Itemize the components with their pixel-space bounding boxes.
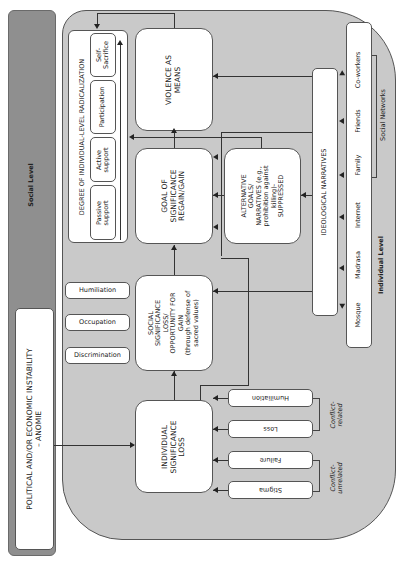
individual-loss-text: INDIVIDUAL SIGNIFICANCE LOSS: [161, 420, 187, 473]
social-factor-occupation: Occupation: [65, 314, 130, 331]
connector: [120, 44, 121, 240]
network-internet: Internet: [346, 190, 372, 240]
social-networks-label: Social Networks: [376, 80, 392, 150]
radicalization-title: DEGREE OF INDIVIDUAL-LEVEL RADICALIZATIO…: [79, 58, 86, 214]
network-family: Family: [346, 140, 372, 190]
individual-loss-box: INDIVIDUAL SIGNIFICANCE LOSS: [135, 400, 213, 493]
label-line: related: [337, 401, 344, 428]
connector: [200, 385, 248, 386]
individual-factor-stigma: Stigma: [228, 481, 313, 499]
label-text: Conflict-related: [330, 401, 345, 428]
alternative-box: ALTERNATIVE GOALS/ NARRATIVES (e.g., pro…: [224, 148, 301, 244]
social-significance-text: SOCIAL SIGNIFICANCE LOSS/ OPPORTUNITY FO…: [148, 291, 200, 355]
connector: [221, 132, 222, 256]
stage-self-sacrifice: Self-Sacrifice: [90, 33, 116, 77]
anomie-box: POLITICAL AND/OR ECONOMIC INSTABILITY – …: [15, 308, 54, 550]
alt-line: SUPPRESSED: [277, 166, 284, 227]
arrow-up-icon: [171, 128, 177, 133]
arrow-up-icon: [171, 371, 177, 376]
label-line: unrelated: [337, 462, 344, 493]
stage-text: Activesupport: [96, 147, 111, 172]
arrow-left-icon: [213, 288, 218, 294]
arrow-up-icon: [117, 40, 123, 45]
stage-line: support: [103, 200, 110, 225]
stage-participation: Participation: [90, 80, 116, 134]
arrow-left-icon: [213, 192, 218, 198]
stage-text: Participation: [99, 87, 106, 128]
factor-label: Stigma: [229, 482, 312, 498]
stage-text: Passivesupport: [96, 200, 111, 225]
stage-line: support: [103, 147, 110, 172]
ideological-label: IDEOLOGICAL NARRATIVES: [321, 149, 328, 236]
network-madrasa: Madrasa: [346, 240, 372, 290]
arrow-left-icon: [301, 192, 306, 198]
alternative-text: ALTERNATIVE GOALS/ NARRATIVES (e.g., pro…: [240, 166, 285, 227]
social-significance-box: SOCIAL SIGNIFICANCE LOSS/ OPPORTUNITY FO…: [135, 275, 213, 371]
violence-text: VIOLENCE ASMEANS: [165, 54, 182, 104]
connector: [174, 13, 175, 28]
arrow-left-icon: [213, 224, 218, 230]
goal-box: GOAL OFSIGNIFICANCEREGAIN/GAIN: [135, 148, 213, 244]
ss-line: sacred values): [193, 291, 200, 355]
factor-label: Loss: [229, 421, 312, 437]
arrow-left-icon: [213, 487, 218, 493]
connector: [261, 137, 262, 148]
connector: [97, 13, 175, 14]
network-friends: Friends: [346, 98, 372, 143]
stage-active-support: Activesupport: [90, 137, 116, 182]
bracket-conflict-related: [313, 398, 320, 431]
anomie-line2: – ANOMIE: [35, 348, 44, 509]
social-factor-discrimination: Discrimination: [65, 347, 130, 364]
label-text: Conflict-unrelated: [330, 462, 345, 493]
stage-line: Participation: [99, 87, 106, 128]
individual-factor-humiliation: Humiliation: [228, 389, 313, 407]
networks-label-text: Social Networks: [380, 89, 387, 141]
conflict-unrelated-label: Conflict-unrelated: [322, 455, 352, 500]
factor-label: Occupation: [66, 315, 129, 330]
violence-box: VIOLENCE ASMEANS: [135, 28, 213, 131]
stage-text: Self-Sacrifice: [96, 41, 111, 69]
anomie-text: POLITICAL AND/OR ECONOMIC INSTABILITY – …: [26, 348, 43, 509]
network-label: Madrasa: [355, 251, 362, 279]
network-label: Mosque: [355, 302, 362, 327]
stage-passive-support: Passivesupport: [90, 185, 116, 240]
connector: [221, 132, 312, 133]
connector: [54, 445, 134, 446]
connector: [133, 137, 261, 138]
arrow-left-icon: [339, 265, 344, 271]
arrow-left-icon: [213, 73, 218, 79]
conflict-related-label: Conflict-related: [322, 395, 352, 435]
ideological-narratives-box: IDEOLOGICAL NARRATIVES: [312, 68, 338, 316]
connector: [213, 291, 312, 292]
arrow-down-icon: [94, 24, 100, 29]
individual-factor-failure: Failure: [228, 451, 313, 469]
connector: [248, 258, 249, 386]
network-co-workers: Co-workers: [346, 45, 372, 95]
connector: [200, 385, 201, 400]
goal-line: REGAIN/GAIN: [178, 169, 187, 222]
connector: [174, 131, 175, 148]
il-line: LOSS: [178, 420, 187, 473]
network-mosque: Mosque: [346, 290, 372, 340]
individual-level-text: Individual Level: [378, 236, 385, 294]
violence-line: MEANS: [174, 54, 183, 104]
arrow-left-icon: [213, 154, 218, 160]
connector: [213, 76, 312, 77]
social-factor-humiliation: Humiliation: [65, 282, 130, 299]
goal-text: GOAL OFSIGNIFICANCEREGAIN/GAIN: [161, 169, 187, 222]
arrow-up-icon: [171, 245, 177, 250]
factor-label: Discrimination: [66, 348, 129, 363]
network-label: Family: [355, 155, 362, 176]
arrow-left-icon: [213, 426, 218, 432]
bracket-conflict-unrelated: [313, 460, 320, 492]
factor-label: Humiliation: [229, 390, 312, 406]
arrow-left-icon: [339, 118, 344, 124]
arrow-left-icon: [129, 134, 134, 140]
individual-factor-loss: Loss: [228, 420, 313, 438]
network-label: Co-workers: [355, 52, 362, 89]
individual-level-label: Individual Level: [374, 230, 390, 300]
arrow-left-icon: [339, 172, 344, 178]
stage-line: Sacrifice: [103, 41, 110, 69]
factor-label: Failure: [229, 452, 312, 468]
arrow-left-icon: [213, 457, 218, 463]
